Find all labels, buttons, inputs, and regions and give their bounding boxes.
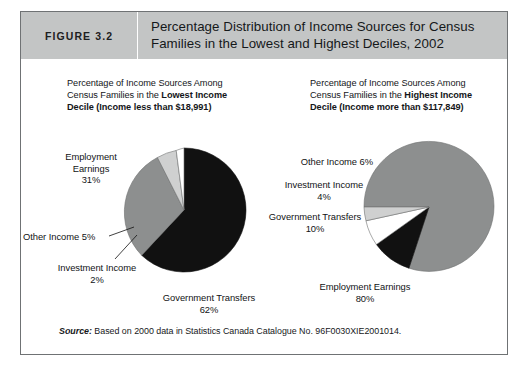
source-text: Based on 2000 data in Statistics Canada … — [92, 326, 401, 336]
source-note: Source: Based on 2000 data in Statistics… — [59, 326, 401, 336]
right-caption-line-2: Census Families in the — [310, 90, 404, 100]
right-label-investment-income: Investment Income 4% — [275, 179, 373, 202]
figure-body: Percentage of Income Sources Among Censu… — [21, 59, 507, 354]
figure-number-cell: FIGURE 3.2 — [21, 12, 138, 59]
figure-title-line-1: Percentage Distribution of Income Source… — [151, 19, 474, 34]
leader-line-investment-income — [115, 235, 137, 259]
figure-container: FIGURE 3.2 Percentage Distribution of In… — [20, 11, 508, 355]
figure-number: FIGURE 3.2 — [45, 30, 113, 42]
right-panel-caption: Percentage of Income Sources Among Censu… — [310, 77, 515, 114]
source-label: Source: — [59, 326, 92, 336]
right-caption-bold-1: Highest Income — [404, 90, 472, 100]
right-caption-line-1: Percentage of Income Sources Among — [310, 78, 466, 88]
figure-header-band: FIGURE 3.2 Percentage Distribution of In… — [21, 12, 507, 59]
leader-line-other-income — [109, 227, 134, 236]
figure-title-cell: Percentage Distribution of Income Source… — [138, 12, 507, 59]
figure-title: Percentage Distribution of Income Source… — [151, 19, 474, 52]
right-pie-chart — [361, 139, 497, 275]
right-caption-bold-2: Decile (Income more than $117,849) — [310, 102, 464, 112]
figure-title-line-2: Families in the Lowest and Highest Decil… — [151, 36, 444, 51]
right-label-government-transfers: Government Transfers 10% — [257, 211, 373, 234]
right-label-employment-earnings: Employment Earnings 80% — [303, 281, 427, 304]
right-label-other-income: Other Income 6% — [283, 156, 373, 168]
